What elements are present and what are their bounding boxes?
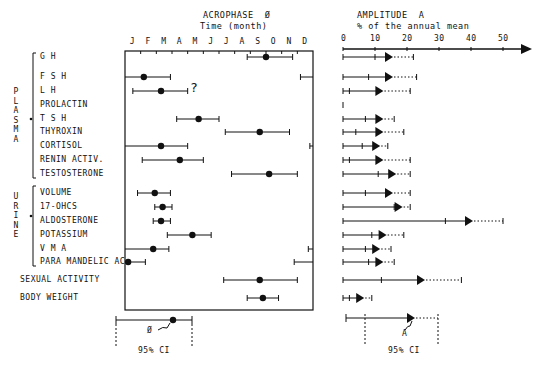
- acrophase-point: [260, 295, 266, 301]
- amplitude-arrow-icon: [375, 127, 383, 137]
- acrophase-frame: [125, 51, 313, 310]
- chart-canvas: [0, 0, 539, 369]
- amplitude-arrow-icon: [356, 293, 364, 303]
- urine-bracket-point: [30, 215, 33, 218]
- acrophase-point: [257, 129, 263, 135]
- amplitude-arrow-icon: [372, 244, 380, 254]
- amplitude-arrow-icon: [375, 257, 383, 267]
- amplitude-arrow-icon: [372, 141, 380, 151]
- amplitude-arrow-icon: [385, 72, 393, 82]
- acrophase-point: [263, 54, 269, 60]
- acrophase-point: [195, 116, 201, 122]
- amplitude-arrow-icon: [375, 155, 383, 165]
- acrophase-point: [266, 171, 272, 177]
- urine-bracket: [33, 186, 36, 266]
- amplitude-arrow-icon: [388, 169, 396, 179]
- acrophase-point: [125, 259, 131, 265]
- legend-pointer: [405, 321, 412, 330]
- acrophase-point: [158, 88, 164, 94]
- acrophase-point: [152, 190, 158, 196]
- acrophase-point: [158, 143, 164, 149]
- amplitude-arrow-icon: [465, 216, 473, 226]
- acrophase-point: [158, 218, 164, 224]
- amplitude-arrow-icon: [379, 230, 387, 240]
- amplitude-arrow-icon: [375, 114, 383, 124]
- legend-pointer: [158, 323, 170, 330]
- acrophase-point: [189, 232, 195, 238]
- axis-arrow-icon: [521, 44, 532, 54]
- amplitude-arrow-icon: [417, 275, 425, 285]
- amplitude-arrow-icon: [395, 202, 403, 212]
- amplitude-arrow-icon: [385, 52, 393, 62]
- acrophase-point: [159, 204, 165, 210]
- acrophase-point: [141, 74, 147, 80]
- plasma-bracket-point: [30, 118, 33, 121]
- legend-point: [170, 317, 176, 323]
- acrophase-point: [177, 157, 183, 163]
- acrophase-point: [257, 277, 263, 283]
- amplitude-arrow-icon: [385, 188, 393, 198]
- acrophase-point: [150, 246, 156, 252]
- plasma-bracket: [33, 53, 36, 178]
- legend-arrow-icon: [407, 313, 415, 323]
- amplitude-arrow-icon: [375, 86, 383, 96]
